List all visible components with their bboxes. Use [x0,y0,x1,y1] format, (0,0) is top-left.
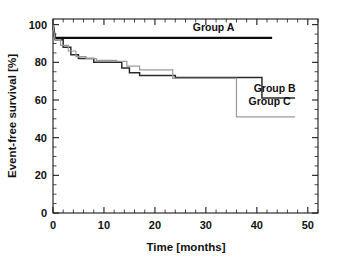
series-labels: Group AGroup BGroup C [193,21,296,106]
y-tick-label: 40 [35,132,47,144]
clipped-caption-strip [0,258,340,267]
x-tick-label: 20 [149,219,161,231]
y-tick-label: 0 [41,207,47,219]
y-axis-major-ticks [53,25,318,213]
x-tick-label: 30 [200,219,212,231]
x-axis-tick-labels: 01020304050 [50,219,314,231]
y-axis-minor-ticks [53,34,318,204]
figure-container: 020406080100 01020304050 Event-free surv… [0,0,340,267]
series-label-group-b: Group B [254,82,296,94]
series-label-group-a: Group A [193,21,235,33]
x-axis-title: Time [months] [146,241,225,253]
y-axis-title: Event-free survival [%] [6,54,18,178]
x-axis-major-ticks [53,19,308,213]
curve-group-a [53,25,272,38]
x-tick-label: 10 [98,219,110,231]
y-tick-label: 60 [35,94,47,106]
x-tick-label: 40 [251,219,263,231]
y-axis-tick-labels: 020406080100 [29,19,47,219]
x-tick-label: 50 [302,219,314,231]
x-tick-label: 0 [50,219,56,231]
plot-frame [53,19,318,213]
y-tick-label: 80 [35,56,47,68]
kaplan-meier-chart: 020406080100 01020304050 Event-free surv… [0,0,340,267]
y-tick-label: 100 [29,19,47,31]
x-axis-minor-ticks [63,19,318,213]
y-tick-label: 20 [35,169,47,181]
series-label-group-c: Group C [249,95,291,107]
